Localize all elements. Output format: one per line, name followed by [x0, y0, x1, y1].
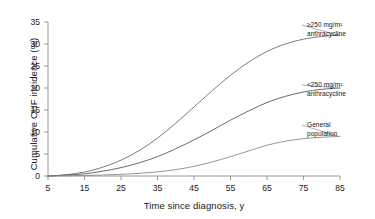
y-tick-label: 35	[30, 17, 40, 27]
x-axis-ticks: 51525354555657585	[46, 176, 345, 193]
cumulative-chf-incidence-line-chart: 05101520253035 51525354555657585 ≥250 mg…	[0, 0, 375, 219]
series-label-line1: <250 mg/m²	[307, 81, 343, 89]
x-tick-label: 55	[226, 183, 236, 193]
chart-series-lines	[48, 35, 340, 176]
x-tick-label: 45	[189, 183, 199, 193]
x-tick-label: 15	[80, 183, 90, 193]
y-tick-label: 0	[35, 171, 40, 181]
series-label-line2: anthracycline	[307, 90, 346, 98]
series-label-line1: General	[307, 121, 331, 128]
y-tick-label: 25	[30, 61, 40, 71]
y-tick-label: 15	[30, 105, 40, 115]
x-tick-label: 85	[335, 183, 345, 193]
x-tick-label: 25	[116, 183, 126, 193]
x-tick-label: 5	[46, 183, 51, 193]
y-tick-label: 20	[30, 83, 40, 93]
y-axis-ticks: 05101520253035	[30, 17, 48, 181]
x-tick-label: 35	[153, 183, 163, 193]
x-tick-label: 75	[299, 183, 309, 193]
series-label-line2: anthracycline	[307, 30, 346, 38]
x-tick-label: 65	[262, 183, 272, 193]
y-tick-label: 10	[30, 127, 40, 137]
series-label-line2: population	[307, 130, 338, 138]
series-line	[48, 88, 340, 176]
chart-figure: 05101520253035 51525354555657585 ≥250 mg…	[0, 0, 375, 219]
series-line	[48, 35, 340, 176]
series-label-line1: ≥250 mg/m²	[307, 21, 343, 29]
y-tick-label: 30	[30, 39, 40, 49]
y-tick-label: 5	[35, 149, 40, 159]
